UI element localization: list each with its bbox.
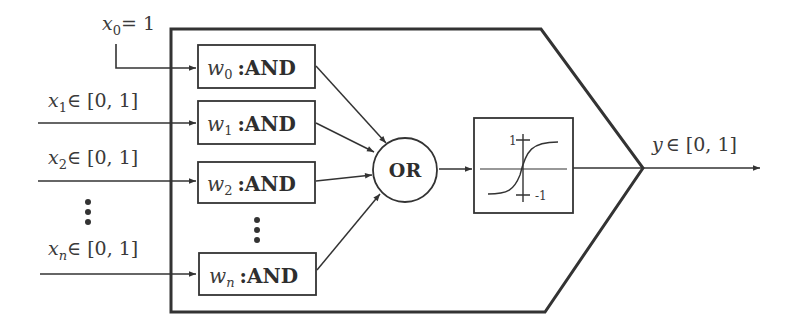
svg-text:OR: OR (389, 159, 422, 181)
svg-text:w1:AND: w1:AND (207, 112, 296, 138)
or-node: OR (373, 138, 437, 202)
bias-input: x0= 1 (102, 12, 196, 68)
and2-to-or-arrow (316, 175, 372, 181)
sigmoid-activation: 1 -1 (474, 118, 573, 213)
and0-to-or-arrow (316, 66, 386, 143)
output-y: y∈ [0, 1] (651, 133, 737, 155)
svg-text:xn∈ [0, 1]: xn∈ [0, 1] (48, 237, 138, 263)
andn-to-or-arrow (317, 194, 380, 270)
and-node-1: w1:AND (198, 101, 315, 144)
svg-text:1: 1 (509, 134, 517, 148)
and-node-n: wn:AND (199, 253, 316, 295)
bias-arrow (116, 44, 196, 68)
input-xn: xn∈ [0, 1] (40, 237, 196, 274)
svg-text:x0= 1: x0= 1 (102, 12, 155, 38)
svg-text:-1: -1 (535, 189, 547, 203)
and-node-0: w0:AND (198, 45, 315, 88)
sigmoid-y-axis (516, 134, 530, 202)
svg-text:wn:AND: wn:AND (209, 264, 298, 290)
svg-text:w2:AND: w2:AND (207, 172, 296, 198)
and-node-2: w2:AND (198, 162, 315, 203)
neuron-diagram: x0= 1 x1∈ [0, 1] x2∈ [0, 1] xn∈ [0, 1] w… (0, 0, 787, 333)
and1-to-or-arrow (316, 123, 374, 152)
svg-text:x1∈ [0, 1]: x1∈ [0, 1] (48, 89, 138, 115)
inputs-ellipsis-icon (85, 199, 91, 225)
svg-text:x2∈ [0, 1]: x2∈ [0, 1] (48, 146, 138, 172)
svg-text:w0:AND: w0:AND (207, 56, 296, 82)
svg-text:y∈ [0, 1]: y∈ [0, 1] (651, 133, 737, 155)
and-nodes-ellipsis-icon (254, 217, 260, 243)
